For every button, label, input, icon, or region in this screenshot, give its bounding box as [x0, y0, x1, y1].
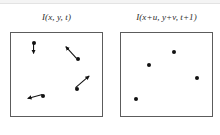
- feature-point: [76, 57, 80, 61]
- page-top-rule: [0, 3, 220, 4]
- feature-point: [32, 41, 36, 45]
- feature-point: [147, 63, 151, 67]
- motion-vector-layer: [11, 33, 102, 116]
- image-frame-t-plus-1: [120, 32, 213, 117]
- image-frame-t: [10, 32, 103, 117]
- feature-point: [195, 76, 199, 80]
- feature-point: [172, 50, 176, 54]
- panel-label-frame-t-plus-1: I(x+u, y+v, t+1): [120, 12, 213, 23]
- feature-point: [41, 94, 45, 98]
- panel-label-frame-t: I(x, y, t): [10, 12, 103, 23]
- figure-root: I(x, y, t) I(x+u, y+v, t+1): [0, 0, 220, 135]
- feature-point: [134, 97, 138, 101]
- motion-vector-p3: [76, 76, 90, 88]
- motion-vector-p2: [66, 47, 77, 59]
- feature-point: [75, 87, 79, 91]
